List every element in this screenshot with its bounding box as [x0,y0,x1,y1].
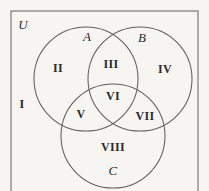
venn-diagram-figure: U A B C I II III IV V VI VII VIII [0,0,209,191]
venn-diagram-canvas [0,0,209,191]
